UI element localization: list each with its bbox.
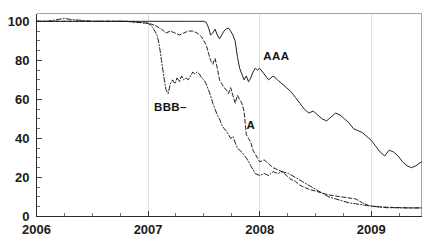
annotation-aaa: AAA — [263, 50, 289, 62]
gridlines — [148, 14, 371, 217]
y-tick-label: 100 — [8, 14, 30, 29]
series-lines — [37, 18, 422, 208]
annotation-bbb: BBB– — [154, 101, 187, 113]
series-line-bbb — [37, 18, 422, 208]
y-tick-label: 80 — [15, 53, 29, 68]
series-annotations: AAABBB–A — [154, 50, 290, 130]
annotation-a: A — [246, 119, 255, 131]
series-line-a — [37, 21, 422, 208]
chart-container: 020406080100 2006200720082009 AAABBB–A — [0, 0, 434, 247]
y-tick-label: 60 — [15, 92, 29, 107]
x-tick-label: 2008 — [245, 222, 274, 237]
y-axis-tick-labels: 020406080100 — [8, 14, 30, 224]
line-chart: 020406080100 2006200720082009 AAABBB–A — [0, 0, 434, 247]
series-line-aaa — [37, 21, 422, 167]
x-tick-label: 2009 — [357, 222, 386, 237]
x-tick-label: 2006 — [22, 222, 51, 237]
y-tick-label: 40 — [15, 131, 29, 146]
x-tick-label: 2007 — [134, 222, 163, 237]
x-axis-tick-labels: 2006200720082009 — [22, 222, 386, 237]
plot-frame — [37, 14, 422, 217]
y-tick-label: 20 — [15, 170, 29, 185]
